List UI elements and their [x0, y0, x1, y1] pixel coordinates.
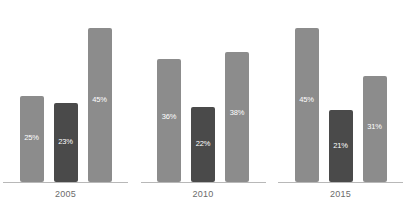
bar[interactable]: 45% — [88, 28, 112, 182]
bar-group: 36%22%38%2010 — [138, 0, 269, 202]
group-baseline — [3, 182, 128, 183]
group-baseline — [278, 182, 403, 183]
bar-group: 45%21%31%2015 — [275, 0, 406, 202]
x-axis-year-label: 2005 — [0, 190, 131, 199]
bar[interactable]: 31% — [363, 76, 387, 182]
bar-group-bars: 45%21%31% — [275, 11, 406, 182]
x-axis-year-label: 2010 — [138, 190, 269, 199]
bar[interactable]: 22% — [191, 107, 215, 182]
bar-group-bars: 25%23%45% — [0, 11, 131, 182]
bar-value-label: 25% — [20, 134, 44, 142]
bar-value-label: 36% — [157, 113, 181, 121]
bar[interactable]: 23% — [54, 103, 78, 182]
bar-value-label: 23% — [54, 138, 78, 146]
bar[interactable]: 36% — [157, 59, 181, 182]
bar-value-label: 38% — [225, 109, 249, 117]
bar-group-bars: 36%22%38% — [138, 11, 269, 182]
bar-value-label: 45% — [88, 96, 112, 104]
bar[interactable]: 21% — [329, 110, 353, 182]
chart-groups: 25%23%45%200536%22%38%201045%21%31%2015 — [0, 0, 406, 202]
bar[interactable]: 25% — [20, 96, 44, 182]
bar-value-label: 45% — [295, 96, 319, 104]
bar-group: 25%23%45%2005 — [0, 0, 131, 202]
bar[interactable]: 45% — [295, 28, 319, 182]
bar[interactable]: 38% — [225, 52, 249, 182]
bar-value-label: 21% — [329, 142, 353, 150]
group-baseline — [141, 182, 266, 183]
bar-chart: 25%23%45%200536%22%38%201045%21%31%2015 — [0, 0, 406, 202]
x-axis-year-label: 2015 — [275, 190, 406, 199]
bar-value-label: 22% — [191, 140, 215, 148]
bar-value-label: 31% — [363, 123, 387, 131]
